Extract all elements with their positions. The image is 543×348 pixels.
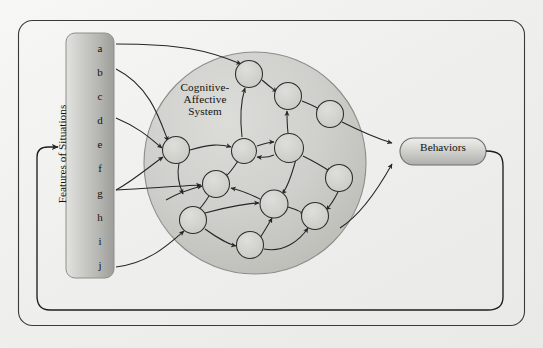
node-n4[interactable] [317,101,344,128]
diagram-svg [0,0,543,348]
feature-item-d[interactable]: d [88,108,112,132]
node-n3[interactable] [275,83,302,110]
node-n11[interactable] [180,207,207,234]
node-n9[interactable] [260,190,288,218]
feature-item-j[interactable]: j [88,253,112,277]
node-n12[interactable] [237,232,264,259]
feature-item-f[interactable]: f [88,156,112,180]
behaviors-box[interactable] [400,138,486,165]
node-n2[interactable] [236,61,263,88]
feature-item-e[interactable]: e [88,132,112,156]
node-n1[interactable] [163,137,190,164]
feature-item-b[interactable]: b [88,60,112,84]
feature-item-i[interactable]: i [88,229,112,253]
feature-item-a[interactable]: a [88,36,112,60]
node-n10[interactable] [302,203,329,230]
node-n8[interactable] [326,165,353,192]
feature-item-c[interactable]: c [88,84,112,108]
node-n5[interactable] [232,139,257,164]
node-n6[interactable] [275,134,304,163]
situation-feature-list: abcdefghij [88,36,112,277]
node-n7[interactable] [203,171,230,198]
figure-canvas: Cognitive- Affective System Features of … [0,0,543,348]
feature-item-h[interactable]: h [88,205,112,229]
feature-item-g[interactable]: g [88,181,112,205]
